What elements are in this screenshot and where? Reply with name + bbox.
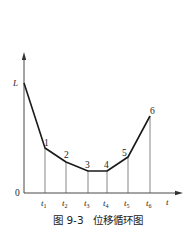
displacement-cycle-chart: L 0 t 1 2 3 4 5 6 t1 t2 t3 t4 t5 t6 [0,0,196,242]
displacement-curve [24,83,150,171]
point-label-3: 3 [85,160,90,170]
point-label-4: 4 [104,160,109,170]
y-axis-label: L [12,78,18,88]
drop-lines [45,116,150,193]
point-label-2: 2 [64,150,69,160]
tick-t5: t5 [124,198,130,209]
point-label-1: 1 [44,138,49,148]
tick-t6: t6 [146,198,152,209]
origin-label: 0 [15,188,20,198]
point-label-6: 6 [150,106,155,116]
tick-t4: t4 [103,198,109,209]
point-label-5: 5 [122,148,127,158]
y-axis-arrow-icon [22,52,26,60]
x-tick-labels: t1 t2 t3 t4 t5 t6 [41,198,152,209]
figure-caption: 图 9-3 位移循环图 [0,212,196,227]
caption-number: 图 9-3 [53,214,84,226]
caption-title: 位移循环图 [93,214,143,226]
tick-t1: t1 [41,198,47,209]
x-axis-arrow-icon [175,191,183,195]
tick-t3: t3 [84,198,90,209]
x-axis-label: t [166,197,169,207]
tick-t2: t2 [62,198,68,209]
